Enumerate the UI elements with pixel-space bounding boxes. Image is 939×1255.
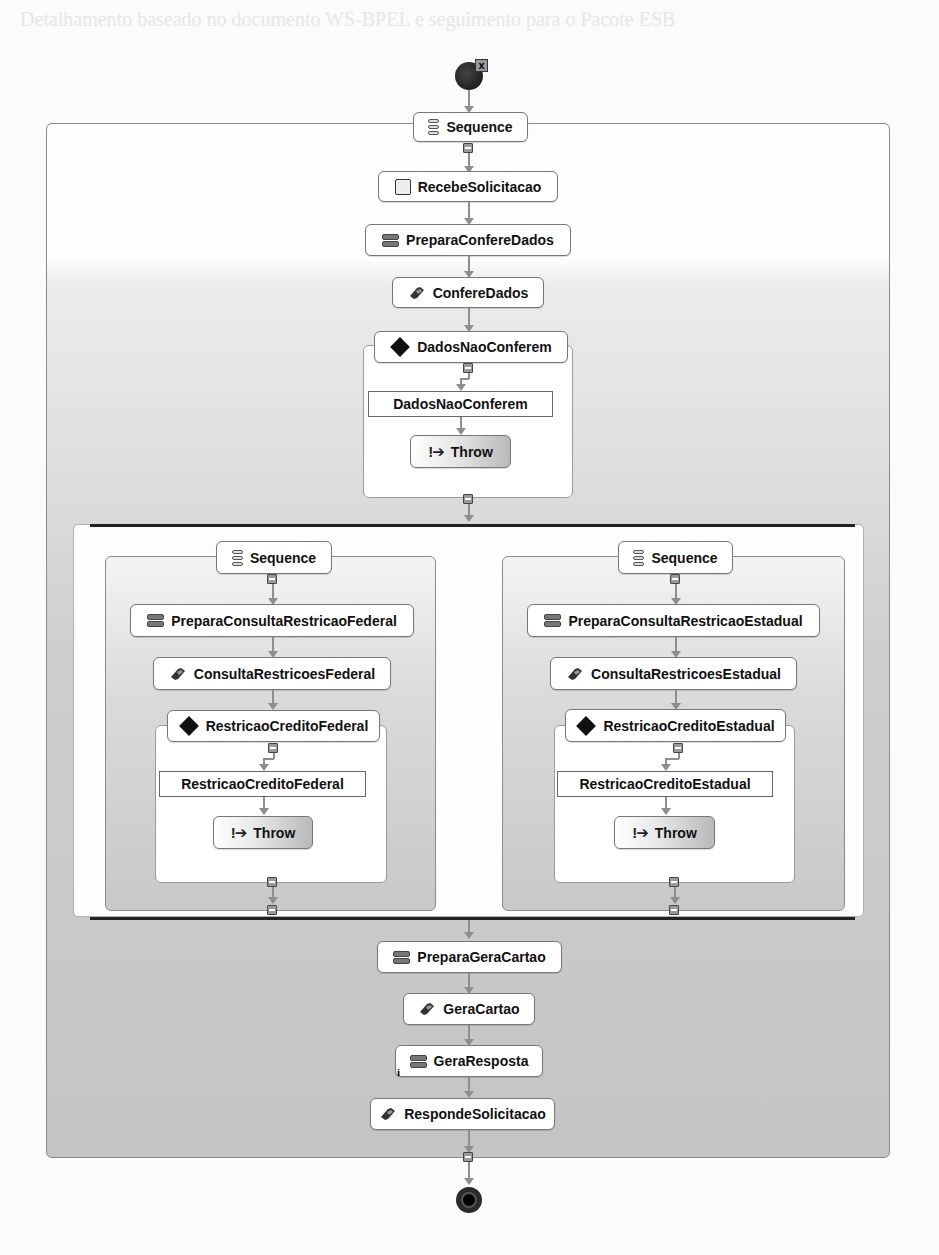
collapse-toggle[interactable] [463, 1152, 473, 1162]
node-label: GeraResposta [434, 1053, 529, 1069]
if-node[interactable]: DadosNaoConferem [374, 331, 568, 363]
node-label: PreparaConfereDados [406, 232, 554, 248]
node-label: RestricaoCreditoEstadual [579, 776, 750, 792]
generate-response-node[interactable]: GeraResposta [395, 1045, 543, 1077]
throw-node[interactable]: !➔ Throw [410, 435, 511, 468]
prepare-card-node[interactable]: PreparaGeraCartao [377, 941, 562, 973]
if-diamond-icon [390, 337, 410, 357]
info-marker-icon[interactable]: i [397, 1066, 400, 1078]
assign-icon [393, 951, 410, 964]
collapse-toggle[interactable] [669, 905, 679, 915]
right-if-node[interactable]: RestricaoCreditoEstadual [565, 709, 786, 742]
left-invoke-node[interactable]: ConsultaRestricoesFederal [153, 657, 391, 690]
invoke-node[interactable]: ConfereDados [392, 277, 544, 308]
generate-card-node[interactable]: GeraCartao [403, 993, 535, 1025]
node-label: Throw [451, 444, 493, 460]
sequence-icon [428, 119, 439, 135]
left-sequence-node[interactable]: Sequence [216, 541, 332, 574]
end-node[interactable] [456, 1187, 482, 1213]
right-prepare-node[interactable]: PreparaConsultaRestricaoEstadual [527, 604, 820, 637]
node-label: RestricaoCreditoFederal [181, 776, 344, 792]
collapse-toggle[interactable] [463, 143, 473, 153]
right-case-node[interactable]: RestricaoCreditoEstadual [557, 771, 773, 797]
collapse-toggle[interactable] [463, 494, 473, 504]
invoke-icon [169, 666, 187, 682]
collapse-toggle[interactable] [669, 877, 679, 887]
left-case-node[interactable]: RestricaoCreditoFederal [159, 771, 366, 797]
assign-node[interactable]: PreparaConfereDados [365, 224, 571, 256]
sequence-icon [633, 550, 644, 566]
node-label: PreparaGeraCartao [417, 949, 545, 965]
reply-icon [379, 1106, 397, 1122]
collapse-toggle[interactable] [673, 743, 683, 753]
parallel-join-bar [90, 917, 855, 920]
if-diamond-icon [179, 716, 199, 736]
node-label: RespondeSolicitacao [404, 1106, 546, 1122]
receive-node[interactable]: RecebeSolicitacao [378, 171, 558, 202]
throw-icon: !➔ [231, 824, 247, 842]
if-diamond-icon [577, 716, 597, 736]
parallel-split-bar [90, 524, 855, 527]
node-label: PreparaConsultaRestricaoFederal [171, 613, 397, 629]
collapse-toggle[interactable] [267, 905, 277, 915]
node-label: RestricaoCreditoFederal [206, 718, 369, 734]
assign-icon [382, 234, 399, 247]
node-label: ConsultaRestricoesFederal [194, 666, 375, 682]
node-label: Sequence [651, 550, 717, 566]
left-prepare-node[interactable]: PreparaConsultaRestricaoFederal [130, 604, 414, 637]
receive-icon [395, 179, 411, 195]
node-label: RecebeSolicitacao [418, 179, 542, 195]
node-label: PreparaConsultaRestricaoEstadual [568, 613, 802, 629]
collapse-toggle[interactable] [268, 743, 278, 753]
collapse-toggle[interactable] [670, 574, 680, 584]
sequence-icon [232, 550, 243, 566]
assign-icon [544, 614, 561, 627]
assign-icon [147, 614, 164, 627]
invoke-icon [418, 1001, 436, 1017]
case-node[interactable]: DadosNaoConferem [368, 391, 553, 417]
node-label: ConsultaRestricoesEstadual [591, 666, 781, 682]
invoke-icon [566, 666, 584, 682]
left-if-node[interactable]: RestricaoCreditoFederal [167, 710, 380, 742]
node-label: ConfereDados [433, 285, 529, 301]
node-label: RestricaoCreditoEstadual [603, 718, 774, 734]
collapse-toggle[interactable] [463, 363, 473, 373]
node-label: Sequence [446, 119, 512, 135]
right-sequence-node[interactable]: Sequence [618, 541, 733, 574]
bleed-through-text: Detalhamento baseado no documento WS-BPE… [20, 8, 920, 31]
right-invoke-node[interactable]: ConsultaRestricoesEstadual [550, 657, 797, 690]
collapse-toggle[interactable] [267, 877, 277, 887]
root-sequence-node[interactable]: Sequence [413, 112, 528, 142]
node-label: DadosNaoConferem [393, 396, 528, 412]
left-throw-node[interactable]: !➔ Throw [213, 816, 313, 849]
error-badge-icon[interactable]: x [475, 59, 488, 72]
node-label: Sequence [250, 550, 316, 566]
throw-icon: !➔ [632, 824, 648, 842]
invoke-icon [408, 285, 426, 301]
assign-icon [410, 1055, 427, 1068]
collapse-toggle[interactable] [267, 574, 277, 584]
reply-node[interactable]: RespondeSolicitacao [370, 1098, 555, 1130]
node-label: Throw [253, 825, 295, 841]
node-label: GeraCartao [443, 1001, 519, 1017]
node-label: Throw [655, 825, 697, 841]
node-label: DadosNaoConferem [417, 339, 552, 355]
throw-icon: !➔ [428, 443, 444, 461]
right-throw-node[interactable]: !➔ Throw [614, 816, 715, 849]
